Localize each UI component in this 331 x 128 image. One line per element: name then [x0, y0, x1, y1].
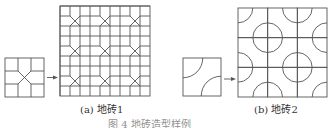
figure-caption: 图 4 地砖造型样例 — [108, 116, 191, 128]
arrow-icon — [231, 77, 236, 81]
caption-b: (b) 地砖2 — [254, 101, 298, 116]
arrow-icon — [53, 76, 58, 80]
caption-a: (a) 地砖1 — [80, 101, 123, 116]
